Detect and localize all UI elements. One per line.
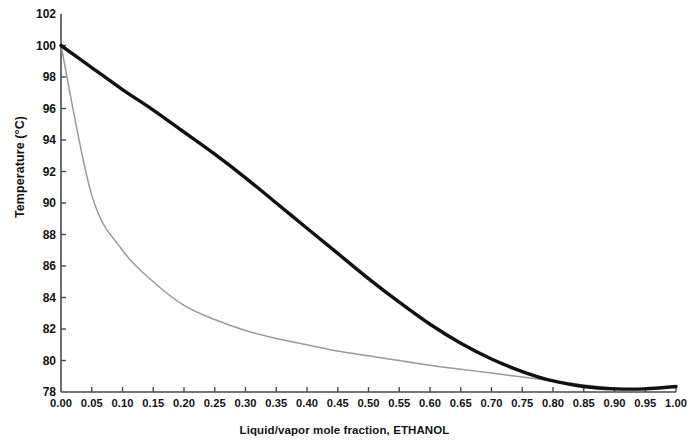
series-line (61, 46, 676, 389)
y-tick-label: 98 (16, 70, 56, 84)
axes (61, 14, 676, 392)
x-axis-title: Liquid/vapor mole fraction, ETHANOL (0, 424, 689, 436)
y-tick-label: 82 (16, 322, 56, 336)
x-tick-label: 1.00 (656, 397, 689, 409)
data-series-group (61, 46, 676, 390)
series-line (61, 46, 676, 390)
y-tick-label: 102 (16, 7, 56, 21)
y-tick-label: 80 (16, 354, 56, 368)
y-tick-label: 84 (16, 291, 56, 305)
plot-area (0, 0, 689, 445)
y-tick-label: 86 (16, 259, 56, 273)
y-tick-label: 100 (16, 39, 56, 53)
vle-phase-diagram: 7880828486889092949698100102 Temperature… (0, 0, 689, 445)
y-axis-title: Temperature (°C) (13, 87, 27, 247)
